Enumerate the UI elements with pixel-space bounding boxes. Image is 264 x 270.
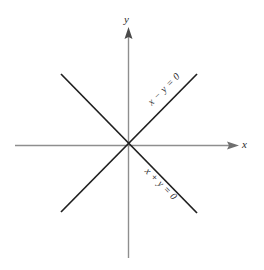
- plot-canvas: [0, 0, 264, 270]
- y-axis-label: y: [124, 14, 129, 25]
- x-axis-label: x: [242, 139, 247, 150]
- coordinate-plane-figure: y x x − y = 0 x + y = 0: [0, 0, 264, 270]
